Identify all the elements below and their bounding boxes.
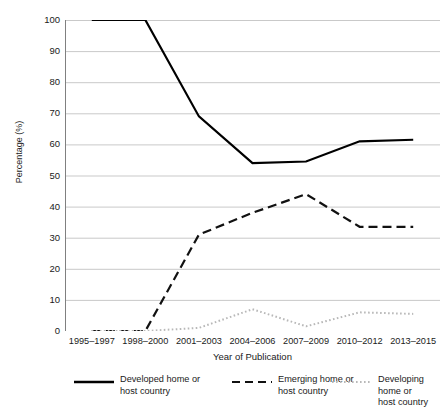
x-tick-label: 2010–2012 — [333, 336, 387, 347]
y-tick-label: 0 — [26, 326, 60, 336]
chart-figure: Percentage (%) 0102030405060708090100 19… — [0, 0, 446, 413]
x-tick-label: 2001–2003 — [172, 336, 226, 347]
y-tick-label: 50 — [26, 171, 60, 181]
legend-item[interactable]: Developing home or host country — [330, 374, 446, 409]
y-tick-label: 10 — [26, 295, 60, 305]
y-tick-label: 40 — [26, 202, 60, 212]
y-tick-label: 90 — [26, 46, 60, 56]
dotted-line-icon — [330, 374, 374, 390]
legend-label: Developed home or host country — [116, 374, 200, 397]
x-tick-label: 2004–2006 — [226, 336, 280, 347]
series-line-1 — [92, 20, 413, 163]
y-tick-label: 60 — [26, 139, 60, 149]
dashed-line-icon — [230, 374, 274, 390]
x-tick-label: 1995–1997 — [65, 336, 119, 347]
y-tick-label: 100 — [26, 15, 60, 25]
x-axis-tick-labels: 1995–19971998–20002001–20032004–20062007… — [65, 336, 440, 352]
chart-canvas — [65, 20, 440, 331]
y-tick-label: 80 — [26, 77, 60, 87]
y-tick-label: 30 — [26, 233, 60, 243]
y-tick-label: 70 — [26, 108, 60, 118]
x-tick-label: 2013–2015 — [386, 336, 440, 347]
series-line-2 — [92, 194, 413, 331]
y-axis-tick-labels: 0102030405060708090100 — [22, 0, 60, 413]
legend-label: Developing home or host country — [374, 374, 446, 409]
plot-area — [65, 20, 440, 331]
x-tick-label: 1998–2000 — [119, 336, 173, 347]
y-tick-label: 20 — [26, 264, 60, 274]
x-axis-title: Year of Publication — [65, 351, 440, 362]
chart-legend: Developed home or host countryEmerging h… — [0, 374, 446, 413]
series-line-3 — [92, 309, 413, 331]
solid-line-icon — [72, 374, 116, 390]
x-tick-label: 2007–2009 — [279, 336, 333, 347]
legend-item[interactable]: Developed home or host country — [72, 374, 200, 397]
